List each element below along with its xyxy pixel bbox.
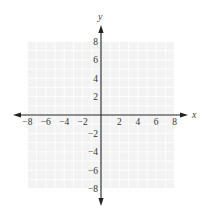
y-tick-label: 6 — [93, 55, 98, 65]
x-tick-label: −4 — [59, 117, 69, 127]
x-tick-label: 4 — [135, 117, 140, 127]
x-tick-label: 6 — [154, 117, 159, 127]
x-tick-label: −8 — [22, 117, 32, 127]
x-tick-label: −6 — [41, 117, 51, 127]
y-tick-label: −8 — [88, 184, 98, 194]
y-tick-label: −4 — [88, 147, 98, 157]
coordinate-plane: −8−6−4−22468 8642−2−4−6−8 x y — [0, 0, 204, 209]
x-tick-label: 2 — [117, 117, 122, 127]
x-axis-label: x — [191, 109, 197, 120]
y-axis-up-arrow-icon — [98, 25, 103, 33]
x-tick-label: −2 — [78, 117, 88, 127]
y-tick-label: 2 — [93, 92, 98, 102]
x-tick-label: 8 — [172, 117, 177, 127]
y-axis-label: y — [97, 11, 103, 22]
y-tick-label: −2 — [88, 129, 98, 139]
y-tick-label: −6 — [88, 166, 98, 176]
x-axis-right-arrow-icon — [180, 112, 188, 117]
y-axis-down-arrow-icon — [98, 198, 103, 206]
y-tick-label: 8 — [93, 37, 98, 47]
x-axis-left-arrow-icon — [13, 112, 21, 117]
y-tick-label: 4 — [93, 74, 98, 84]
